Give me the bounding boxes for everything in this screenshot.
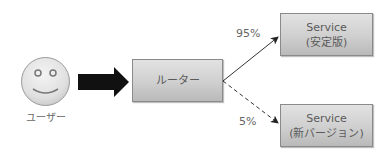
service-stable-subtitle: (安定版) (306, 35, 348, 50)
service-new-subtitle: (新バージョン) (289, 126, 364, 141)
router-label: ルーター (156, 73, 200, 88)
service-new-title: Service (306, 111, 347, 126)
service-stable-node: Service (安定版) (280, 13, 373, 56)
traffic-percent-new: 5% (239, 115, 256, 128)
traffic-percent-stable: 95% (236, 27, 260, 40)
thick-right-arrow-icon (78, 67, 129, 97)
router-node: ルーター (132, 59, 223, 102)
canary-routing-diagram: ユーザー ルーター 95% 5% Service (安定版) Service (… (0, 0, 388, 156)
service-stable-title: Service (306, 20, 347, 35)
smiley-face-icon (22, 58, 70, 106)
edge-to-stable (223, 37, 278, 81)
user-label: ユーザー (24, 109, 68, 124)
service-new-node: Service (新バージョン) (280, 104, 373, 147)
